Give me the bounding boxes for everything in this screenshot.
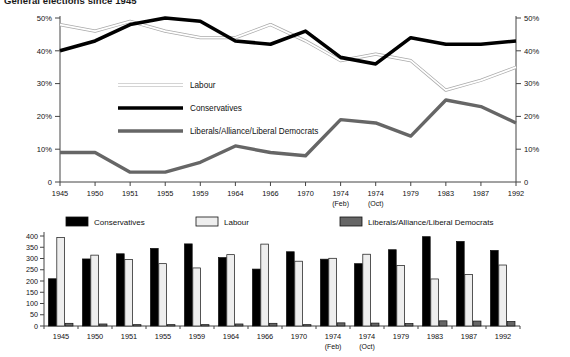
bar-x-axis-sub-label: (Feb) xyxy=(325,343,342,351)
bar-group xyxy=(490,250,515,326)
bar-x-axis-label: 1955 xyxy=(155,332,171,341)
bar-group xyxy=(422,237,447,326)
bar-liberals xyxy=(269,323,277,326)
bar-conservatives xyxy=(48,279,56,326)
bar-conservatives xyxy=(490,250,498,326)
x-axis-tick-label: 1974 xyxy=(367,189,383,198)
bar-y-axis-tick: 0 xyxy=(34,322,38,331)
x-axis-tick-label: 1955 xyxy=(157,189,173,198)
bar-labour xyxy=(125,260,133,326)
bar-x-axis-label: 1959 xyxy=(189,332,205,341)
y-axis-left-tick: 20% xyxy=(37,112,52,121)
bar-group xyxy=(184,244,209,326)
x-axis-tick-label: 1945 xyxy=(52,189,68,198)
y-axis-left-tick: 40% xyxy=(37,47,52,56)
x-axis-tick-label: 1951 xyxy=(122,189,138,198)
bar-group xyxy=(116,254,141,326)
x-axis-tick-label: 1987 xyxy=(473,189,489,198)
bar-conservatives xyxy=(456,241,464,326)
bar-liberals xyxy=(371,323,379,326)
bar-y-axis-tick: 350 xyxy=(26,243,38,252)
bar-labour xyxy=(91,255,99,326)
legend-label-labour: Labour xyxy=(190,81,216,90)
bar-y-axis-tick: 100 xyxy=(26,299,38,308)
line-series-liberals xyxy=(60,100,516,172)
bar-legend-label-conservatives: Conservatives xyxy=(94,218,145,227)
bar-group xyxy=(150,248,175,326)
y-axis-right-tick: 0 xyxy=(524,178,528,187)
chart-page: General elections since 1945 0010%10%20%… xyxy=(0,0,570,357)
bar-group xyxy=(388,250,413,326)
bar-labour xyxy=(227,255,235,326)
bar-conservatives xyxy=(286,252,294,326)
bar-liberals xyxy=(99,324,107,326)
x-axis-tick-label: 1983 xyxy=(438,189,454,198)
bar-liberals xyxy=(133,325,141,326)
y-axis-right-tick: 10% xyxy=(524,145,539,154)
bar-liberals xyxy=(235,324,243,326)
bar-conservatives xyxy=(116,254,124,326)
bar-y-axis-tick: 150 xyxy=(26,288,38,297)
bar-legend-swatch-liberals xyxy=(340,217,362,226)
y-axis-left-tick: 0 xyxy=(48,178,52,187)
bar-conservatives xyxy=(150,248,158,326)
bar-x-axis-label: 1964 xyxy=(223,332,239,341)
bar-labour xyxy=(329,258,337,326)
legend-item-liberals: Liberals/Alliance/Liberal Democrats xyxy=(118,127,318,136)
bar-x-axis-label: 1983 xyxy=(427,332,443,341)
y-axis-left-tick: 10% xyxy=(37,145,52,154)
bar-conservatives xyxy=(218,258,226,326)
bar-conservatives xyxy=(388,250,396,326)
bar-liberals xyxy=(337,323,345,326)
bar-legend-swatch-labour xyxy=(196,217,218,226)
x-axis-tick-label: 1950 xyxy=(87,189,103,198)
x-axis-tick-label: 1992 xyxy=(508,189,524,198)
bar-y-axis-tick: 400 xyxy=(26,232,38,241)
bar-x-axis-label: 1974 xyxy=(325,332,341,341)
bar-conservatives xyxy=(184,244,192,326)
bar-labour xyxy=(431,279,439,326)
bar-conservatives xyxy=(354,264,362,326)
bar-legend-swatch-conservatives xyxy=(66,217,88,226)
bar-group xyxy=(82,255,107,326)
legend-label-conservatives: Conservatives xyxy=(190,104,242,113)
bar-x-axis-label: 1979 xyxy=(393,332,409,341)
bar-x-axis-label: 1992 xyxy=(495,332,511,341)
bar-liberals xyxy=(65,323,73,326)
bar-liberals xyxy=(167,325,175,326)
x-axis-tick-label: 1974 xyxy=(332,189,348,198)
x-axis-tick-label: 1970 xyxy=(297,189,313,198)
bar-legend-label-liberals: Liberals/Alliance/Liberal Democrats xyxy=(368,218,493,227)
bar-y-axis-tick: 300 xyxy=(26,254,38,263)
bar-group xyxy=(456,241,481,326)
line-series-labour-outer xyxy=(60,21,516,90)
bar-conservatives xyxy=(320,259,328,326)
bar-y-axis-tick: 200 xyxy=(26,277,38,286)
bar-group xyxy=(252,244,277,326)
y-axis-left-tick: 50% xyxy=(37,14,52,23)
bar-legend-item-conservatives: Conservatives xyxy=(66,217,145,227)
bar-labour xyxy=(499,265,507,326)
bar-x-axis-sub-label: (Oct) xyxy=(359,343,375,351)
bar-x-axis-label: 1966 xyxy=(257,332,273,341)
bar-liberals xyxy=(507,322,515,327)
bar-x-axis-label: 1987 xyxy=(461,332,477,341)
bar-conservatives xyxy=(252,269,260,326)
bar-labour xyxy=(193,268,201,326)
x-axis-tick-label: 1966 xyxy=(262,189,278,198)
legend-item-labour: Labour xyxy=(118,81,216,90)
bar-x-axis-label: 1974 xyxy=(359,332,375,341)
bar-y-axis-tick: 250 xyxy=(26,265,38,274)
bar-chart: 0501001502002503003504001945195019511955… xyxy=(0,214,570,357)
bar-liberals xyxy=(201,325,209,326)
y-axis-left-tick: 30% xyxy=(37,79,52,88)
bar-conservatives xyxy=(422,237,430,326)
y-axis-right-tick: 40% xyxy=(524,47,539,56)
bar-x-axis-label: 1950 xyxy=(87,332,103,341)
x-axis-tick-label: 1979 xyxy=(403,189,419,198)
bar-legend-item-liberals: Liberals/Alliance/Liberal Democrats xyxy=(340,217,493,227)
bar-group xyxy=(218,255,243,326)
bar-legend-label-labour: Labour xyxy=(224,218,249,227)
bar-legend-item-labour: Labour xyxy=(196,217,249,227)
bar-labour xyxy=(261,244,269,326)
